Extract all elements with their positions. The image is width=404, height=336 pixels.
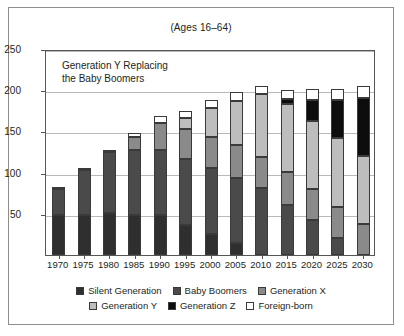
bar-segment[interactable] [52,187,65,189]
bar-segment[interactable] [154,215,167,255]
bar-segment[interactable] [281,172,294,205]
legend-item[interactable]: Baby Boomers [173,285,247,296]
bar-segment[interactable] [52,189,65,215]
x-axis-tick-label: 1970 [44,259,72,270]
x-axis-tick-label: 1995 [171,259,199,270]
bar-segment[interactable] [128,150,141,216]
bar-segment[interactable] [154,116,167,123]
bar-segment[interactable] [331,207,344,237]
legend-item-label: Baby Boomers [185,285,247,296]
legend-swatch-icon [76,287,84,295]
x-axis-tick-label: 2005 [221,259,249,270]
y-axis-tick-mark [41,50,45,51]
bar-segment[interactable] [255,86,268,93]
legend-swatch-icon [246,302,254,310]
bar-segment[interactable] [179,118,192,129]
bar-segment[interactable] [205,234,218,255]
chart-header-note: (Ages 16–64) [9,22,393,33]
plot-area: Generation Y Replacing the Baby Boomers [45,50,375,256]
x-axis-tick-label: 1975 [69,259,97,270]
y-axis-tick-mark [41,132,45,133]
bar-segment[interactable] [281,90,294,99]
x-axis-tick-label: 2015 [272,259,300,270]
y-axis-tick-mark [41,174,45,175]
bar-segment[interactable] [306,220,319,255]
bar-segment[interactable] [306,121,319,189]
y-axis-tick-label: 250 [0,44,21,55]
bar-segment[interactable] [230,243,243,255]
chart-legend: Silent GenerationBaby BoomersGeneration … [9,285,393,315]
bar-segment[interactable] [128,133,141,137]
legend-row-primary: Silent GenerationBaby BoomersGeneration … [9,285,393,296]
bar-segment[interactable] [128,215,141,255]
legend-item-label: Generation Z [180,300,235,311]
bar-segment[interactable] [230,92,243,101]
bar-segment[interactable] [281,104,294,172]
bar-segment[interactable] [255,94,268,157]
legend-swatch-icon [258,287,266,295]
bar-segment[interactable] [78,170,91,214]
bar-segment[interactable] [78,215,91,255]
bar-segment[interactable] [281,205,294,255]
x-axis-tick-label: 1985 [120,259,148,270]
y-axis-tick-mark [41,215,45,216]
bar-segment[interactable] [357,224,370,255]
legend-item-label: Foreign-born [258,300,312,311]
bar-segment[interactable] [103,152,116,213]
bar-series-container [46,51,374,255]
y-axis-tick-label: 50 [0,209,21,220]
bar-segment[interactable] [154,150,167,216]
y-axis-tick-mark [41,91,45,92]
bar-segment[interactable] [230,101,243,145]
x-axis-tick-label: 2020 [298,259,326,270]
bar-segment[interactable] [331,89,344,101]
legend-item[interactable]: Foreign-born [246,300,312,311]
y-axis-tick-label: 100 [0,168,21,179]
bar-segment[interactable] [357,98,370,156]
legend-item[interactable]: Generation X [258,285,326,296]
bar-segment[interactable] [78,168,91,170]
legend-item[interactable]: Generation Y [89,300,157,311]
bar-segment[interactable] [128,137,141,149]
x-axis-tick-label: 1980 [94,259,122,270]
x-axis-tick-label: 1990 [145,259,173,270]
y-axis-tick-label: 200 [0,85,21,96]
bar-segment[interactable] [179,129,192,159]
bar-segment[interactable] [331,238,344,255]
bar-segment[interactable] [306,100,319,121]
bar-segment[interactable] [52,215,65,255]
bar-segment[interactable] [154,123,167,149]
bar-segment[interactable] [205,108,218,138]
bar-segment[interactable] [205,168,218,235]
legend-swatch-icon [173,287,181,295]
y-axis-tick-label: 150 [0,126,21,137]
bar-segment[interactable] [179,111,192,118]
bar-segment[interactable] [306,89,319,100]
bar-segment[interactable] [103,213,116,255]
x-axis-tick-label: 2030 [348,259,376,270]
bar-segment[interactable] [281,99,294,104]
bar-segment[interactable] [306,189,319,220]
bar-segment[interactable] [205,100,218,107]
legend-item-label: Generation Y [101,300,157,311]
bar-segment[interactable] [230,178,243,244]
legend-item[interactable]: Generation Z [168,300,235,311]
bar-segment[interactable] [331,138,344,207]
x-axis-tick-label: 2025 [323,259,351,270]
bar-segment[interactable] [179,225,192,255]
x-axis-tick-label: 2010 [247,259,275,270]
bar-segment[interactable] [103,150,116,152]
bar-segment[interactable] [255,157,268,188]
bar-segment[interactable] [357,86,370,98]
bar-segment[interactable] [179,159,192,225]
legend-item-label: Generation X [270,285,326,296]
legend-item[interactable]: Silent Generation [76,285,161,296]
legend-swatch-icon [89,302,97,310]
bar-segment[interactable] [357,156,370,224]
legend-swatch-icon [168,302,176,310]
legend-item-label: Silent Generation [88,285,161,296]
bar-segment[interactable] [230,145,243,177]
bar-segment[interactable] [255,188,268,255]
bar-segment[interactable] [331,100,344,138]
bar-segment[interactable] [205,137,218,167]
